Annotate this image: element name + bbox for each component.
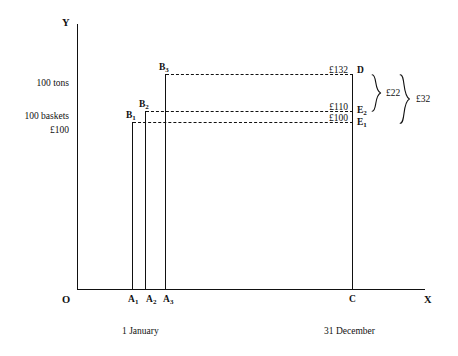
point-label-b1-subscript: 1 <box>132 114 136 122</box>
bar-cd-december <box>352 74 353 290</box>
bar-b3-a3 <box>165 74 166 290</box>
x-axis-label: X <box>424 295 432 306</box>
point-label-e2: E2 <box>357 106 367 116</box>
x-tick-label-a1-letter: A <box>128 294 135 304</box>
x-tick-label-a1-subscript: 1 <box>135 298 139 306</box>
point-label-e2-subscript: 2 <box>363 109 367 117</box>
y-axis-label: Y <box>62 18 70 29</box>
value-label-132: £132 <box>300 66 348 76</box>
x-tick-label-a2-letter: A <box>146 294 153 304</box>
point-label-e1: E1 <box>357 118 367 128</box>
y-annotation-baskets: 100 baskets <box>0 112 69 122</box>
origin-label: O <box>62 295 70 306</box>
point-label-b2-subscript: 2 <box>145 103 149 111</box>
point-label-d: D <box>357 66 364 76</box>
x-tick-label-a2-subscript: 2 <box>153 298 157 306</box>
x-tick-label-a3-subscript: 3 <box>170 298 174 306</box>
x-tick-label-a2: A2 <box>146 295 156 305</box>
brace-outer-label-32: £32 <box>416 95 430 105</box>
value-label-100: £100 <box>300 114 348 124</box>
x-tick-label-a3: A3 <box>163 295 173 305</box>
y-annotation-tons: 100 tons <box>0 79 69 89</box>
x-tick-label-a1: A1 <box>128 295 138 305</box>
x-tick-label-c: C <box>349 295 356 305</box>
brace-outer-32 <box>399 74 412 124</box>
point-label-b3: B3 <box>159 63 169 73</box>
point-label-b1: B1 <box>126 111 136 121</box>
x-tick-label-a3-letter: A <box>163 294 170 304</box>
value-label-110: £110 <box>300 103 348 113</box>
caption-period-start: 1 January <box>122 327 159 337</box>
point-label-e1-subscript: 1 <box>363 121 367 129</box>
y-axis-line <box>77 24 78 290</box>
x-axis-line <box>77 289 425 290</box>
inflation-accounting-figure: Y X O 100 tons 100 baskets £100 B3 B2 B1… <box>0 0 458 356</box>
y-annotation-money: £100 <box>0 126 69 136</box>
bar-b1-a1 <box>132 122 133 290</box>
point-label-b2: B2 <box>139 100 149 110</box>
caption-period-end: 31 December <box>324 327 375 337</box>
brace-inner-22 <box>371 74 383 112</box>
bar-b2-a2 <box>145 111 146 290</box>
point-label-b3-subscript: 3 <box>165 66 169 74</box>
